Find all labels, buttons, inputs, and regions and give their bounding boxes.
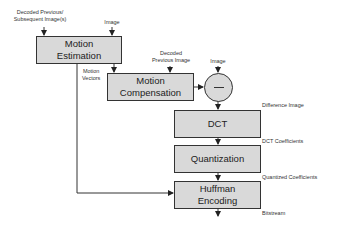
label-image-subtract-input: Image	[210, 58, 225, 65]
label-image-input: Image	[104, 19, 119, 26]
label-dct-coefficients: DCT Coefficients	[262, 138, 303, 145]
label-difference-image: Difference Image	[262, 102, 304, 109]
label-motion-vectors: Motion Vectors	[82, 68, 100, 82]
quantization-box: Quantization	[174, 145, 261, 173]
motion-estimation-box: Motion Estimation	[36, 36, 122, 64]
minus-icon	[214, 87, 224, 89]
label-decoded-previous-subsequent: Decoded Previous/ Subsequent Image(s)	[14, 9, 67, 23]
label-decoded-previous-image: Decoded Previous Image	[152, 50, 190, 64]
dct-box: DCT	[174, 110, 261, 138]
motion-compensation-box: Motion Compensation	[107, 73, 194, 101]
label-bitstream: Bitstream	[262, 210, 285, 217]
huffman-encoding-box: Huffman Encoding	[174, 181, 261, 209]
connector-lines	[0, 0, 343, 228]
subtraction-node	[204, 73, 233, 102]
label-quantized-coefficients: Quantized Coefficients	[262, 174, 317, 181]
